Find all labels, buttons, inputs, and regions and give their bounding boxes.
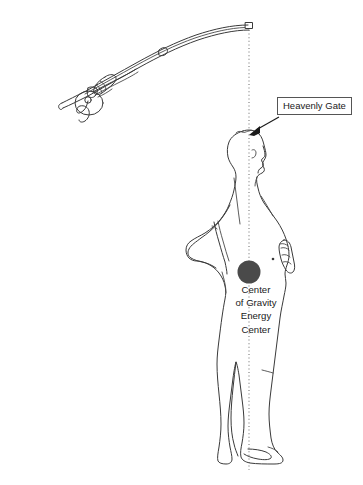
hip-point-marker	[272, 258, 275, 261]
knee-crease	[262, 370, 273, 373]
diagram-illustration	[0, 0, 363, 485]
rear-foot-outline	[244, 449, 271, 460]
arrowhead	[249, 126, 260, 136]
heavenly-gate-label: Heavenly Gate	[277, 97, 352, 115]
center-of-gravity-caption: Center of Gravity Energy Center	[216, 283, 296, 336]
fishing-rod-group	[59, 23, 253, 123]
thumb-line	[280, 244, 288, 246]
rod-butt-cap	[59, 103, 63, 110]
caption-line-3: Energy	[216, 309, 296, 322]
reel-support-arm-inner	[95, 72, 138, 95]
chest-contour	[261, 196, 273, 216]
diagram-canvas: Heavenly Gate Center of Gravity Energy C…	[0, 0, 363, 485]
finger-line-1	[281, 248, 289, 250]
forearm-inner-line	[218, 221, 229, 261]
center-of-gravity-dot	[238, 261, 261, 284]
callout-leader-arrow	[249, 117, 279, 136]
leg-separation-line	[231, 362, 238, 456]
ankle-detail	[268, 447, 278, 452]
spine-contour	[234, 178, 240, 224]
ear-detail	[252, 150, 256, 158]
caption-line-2: of Gravity	[216, 296, 296, 309]
rod-lower-edge	[63, 30, 249, 108]
caption-line-4: Center	[216, 323, 296, 336]
caption-line-1: Center	[216, 283, 296, 296]
